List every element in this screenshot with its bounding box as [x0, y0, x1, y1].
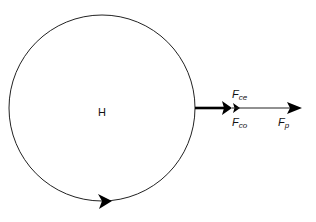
force-ce-sub: ce: [239, 93, 248, 102]
force-p-label: Fp: [278, 116, 290, 130]
force-co-label: Fco: [232, 116, 248, 130]
force-ce-label: Fce: [232, 88, 248, 102]
force-co-sub: co: [239, 121, 248, 130]
force-diagram: H Fce Fco Fp: [0, 0, 316, 222]
force-p-sub: p: [284, 121, 290, 130]
rotation-arrow-icon: [98, 194, 112, 209]
center-label: H: [98, 106, 106, 118]
